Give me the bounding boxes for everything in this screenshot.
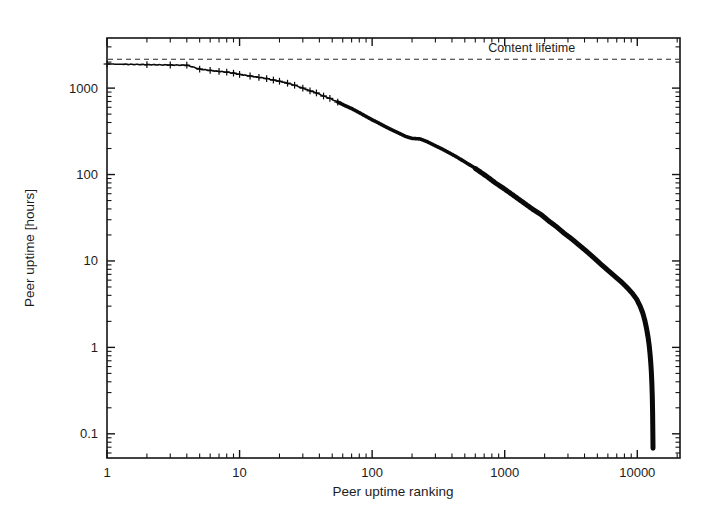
x-tick-label: 1000 bbox=[490, 465, 519, 480]
y-tick-label: 0.1 bbox=[80, 426, 98, 441]
x-tick-label: 1 bbox=[103, 465, 110, 480]
peer-uptime-chart: 11010010001000010001001010.1 Content lif… bbox=[0, 0, 714, 521]
y-axis-title: Peer uptime [hours] bbox=[22, 189, 37, 307]
x-tick-label: 10 bbox=[232, 465, 246, 480]
y-tick-label: 1000 bbox=[69, 81, 98, 96]
x-tick-label: 100 bbox=[361, 465, 383, 480]
x-axis-title: Peer uptime ranking bbox=[333, 484, 454, 499]
content-lifetime-label: Content lifetime bbox=[488, 41, 575, 55]
x-tick-label: 10000 bbox=[619, 465, 655, 480]
y-tick-label: 10 bbox=[84, 253, 98, 268]
y-tick-label: 100 bbox=[76, 167, 98, 182]
y-tick-label: 1 bbox=[91, 340, 98, 355]
figure-container: 11010010001000010001001010.1 Content lif… bbox=[0, 0, 714, 521]
